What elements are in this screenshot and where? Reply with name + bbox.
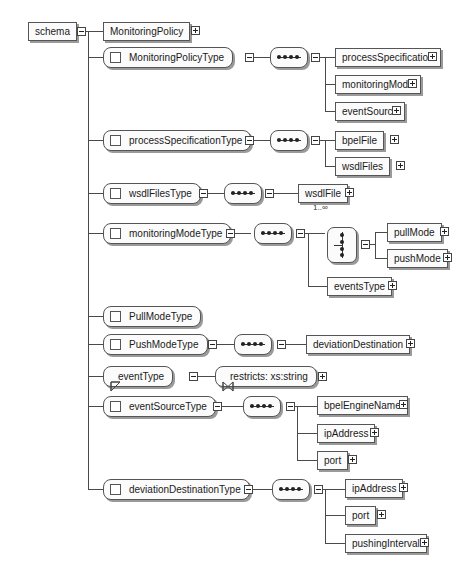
choice-compositor[interactable]: [327, 227, 357, 263]
element-pull-mode[interactable]: pullMode: [387, 223, 442, 242]
minus-box-icon[interactable]: [208, 340, 217, 349]
plus-box-icon[interactable]: [191, 26, 200, 35]
plus-box-icon[interactable]: [428, 52, 437, 61]
plus-box-icon[interactable]: [408, 79, 417, 88]
complextype-process-specification-type[interactable]: processSpecificationType: [103, 130, 251, 151]
sequence-compositor[interactable]: [270, 47, 308, 68]
minus-box-icon[interactable]: [286, 402, 295, 411]
element-process-specification[interactable]: processSpecification: [335, 48, 441, 67]
square-icon: [110, 401, 121, 412]
plus-box-icon[interactable]: [377, 510, 386, 519]
minus-box-icon[interactable]: [189, 372, 198, 381]
minus-box-icon[interactable]: [265, 189, 274, 198]
minus-box-icon[interactable]: [361, 240, 370, 249]
complextype-wsdl-files-type[interactable]: wsdlFilesType: [103, 183, 201, 204]
element-ip-address[interactable]: ipAddress: [345, 479, 403, 498]
element-wsdl-file[interactable]: wsdlFile: [298, 184, 348, 203]
plus-box-icon[interactable]: [370, 428, 379, 437]
sequence-compositor[interactable]: [224, 183, 262, 204]
element-wsdl-files[interactable]: wsdlFiles: [335, 157, 390, 176]
sequence-compositor[interactable]: [272, 479, 310, 500]
schema-node[interactable]: schema: [28, 22, 77, 41]
plus-box-icon[interactable]: [406, 339, 415, 348]
complextype-pull-mode-type[interactable]: PullModeType: [103, 306, 201, 327]
plus-box-icon[interactable]: [443, 253, 452, 262]
square-icon: [110, 311, 121, 322]
square-icon: [110, 228, 121, 239]
plus-box-icon[interactable]: [392, 106, 401, 115]
element-bpel-engine-name[interactable]: bpelEngineName: [317, 396, 408, 415]
minus-box-icon[interactable]: [213, 402, 222, 411]
minus-box-icon[interactable]: [296, 229, 305, 238]
complextype-deviation-destination-type[interactable]: deviationDestinationType: [103, 479, 250, 500]
plus-box-icon[interactable]: [399, 483, 408, 492]
plus-box-icon[interactable]: [345, 188, 354, 197]
plus-box-icon[interactable]: [390, 135, 399, 144]
element-deviation-destination[interactable]: deviationDestination: [306, 335, 410, 354]
minus-box-icon[interactable]: [244, 485, 253, 494]
square-icon: [110, 52, 121, 63]
complextype-event-source-type[interactable]: eventSourceType: [103, 396, 216, 417]
plus-box-icon[interactable]: [396, 161, 405, 170]
minus-box-icon[interactable]: [245, 53, 254, 62]
sequence-compositor[interactable]: [243, 396, 281, 417]
minus-box-icon[interactable]: [199, 189, 208, 198]
plus-box-icon[interactable]: [318, 372, 327, 381]
minus-box-icon[interactable]: [311, 136, 320, 145]
minus-box-icon[interactable]: [311, 53, 320, 62]
plus-box-icon[interactable]: [348, 455, 357, 464]
element-events-type[interactable]: eventsType: [327, 277, 392, 296]
element-port[interactable]: port: [345, 506, 376, 525]
element-ip-address[interactable]: ipAddress: [317, 424, 375, 443]
minus-box-icon[interactable]: [245, 136, 254, 145]
simpletype-event-type[interactable]: eventType: [103, 366, 173, 387]
element-monitoring-policy[interactable]: MonitoringPolicy: [103, 22, 190, 41]
square-icon: [110, 484, 121, 495]
complextype-monitoring-mode-type[interactable]: monitoringModeType: [103, 223, 231, 244]
minus-box-icon[interactable]: [277, 340, 286, 349]
square-icon: [110, 135, 121, 146]
plus-box-icon[interactable]: [388, 281, 397, 290]
element-bpel-file[interactable]: bpelFile: [335, 131, 384, 150]
plus-box-icon[interactable]: [399, 400, 408, 409]
element-pushing-interval[interactable]: pushingInterval: [345, 534, 427, 553]
sequence-compositor[interactable]: [270, 130, 308, 151]
plus-box-icon[interactable]: [420, 538, 429, 547]
square-icon: [110, 339, 121, 350]
minus-box-icon[interactable]: [226, 229, 235, 238]
element-port[interactable]: port: [317, 451, 348, 470]
complextype-monitoring-policy-type[interactable]: MonitoringPolicyType: [103, 47, 233, 68]
minus-box-icon[interactable]: [77, 27, 86, 36]
sequence-compositor[interactable]: [254, 223, 292, 244]
plus-box-icon[interactable]: [440, 227, 449, 236]
square-icon: [110, 188, 121, 199]
restriction-node[interactable]: restricts: xs:string: [215, 366, 317, 387]
element-push-mode[interactable]: pushMode: [387, 249, 448, 268]
complextype-push-mode-type[interactable]: PushModeType: [103, 334, 208, 355]
trunk-connector: [88, 31, 89, 490]
multiplicity-label: 1..∞: [313, 203, 328, 212]
sequence-compositor[interactable]: [234, 334, 272, 355]
schema-label: schema: [35, 26, 70, 37]
minus-box-icon[interactable]: [314, 485, 323, 494]
